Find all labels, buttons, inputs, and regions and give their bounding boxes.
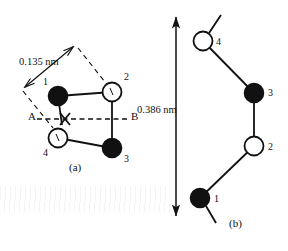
atom-label-b-3: 3 bbox=[268, 88, 273, 98]
bonds-b bbox=[200, 41, 254, 198]
atom-label-a-3: 3 bbox=[124, 154, 129, 164]
atom-b-1-filled bbox=[191, 189, 210, 208]
atom-b-4-open bbox=[194, 32, 213, 51]
atom-b-3-filled bbox=[245, 84, 264, 103]
atom-a-1-filled bbox=[49, 87, 68, 106]
free-bond-top bbox=[209, 15, 221, 33]
axis-endpoint-label-a: A bbox=[28, 111, 36, 122]
bond-4-3 bbox=[203, 41, 254, 93]
panel-caption-b: (b) bbox=[229, 218, 242, 229]
atom-label-b-2: 2 bbox=[268, 142, 273, 152]
extension-line-right bbox=[78, 48, 109, 87]
figure-root: 0.135 nm A B 1 2 3 4 (a) 0.386 nm 4 3 2 … bbox=[0, 0, 288, 251]
dimension-label-0135: 0.135 nm bbox=[19, 57, 59, 68]
atom-a-3-filled bbox=[103, 139, 122, 158]
atom-b-2-open bbox=[245, 137, 264, 156]
atom-label-a-4: 4 bbox=[43, 148, 48, 158]
bond-2-1 bbox=[200, 146, 254, 198]
dimension-label-0386: 0.386 nm bbox=[137, 105, 177, 116]
molecular-chain-diagram bbox=[0, 0, 288, 251]
atom-label-b-1: 1 bbox=[214, 194, 219, 204]
atom-label-a-1: 1 bbox=[43, 77, 48, 87]
free-bond-bottom bbox=[206, 206, 216, 223]
atom-label-b-4: 4 bbox=[216, 37, 221, 47]
atom-label-a-2: 2 bbox=[124, 72, 129, 82]
panel-caption-a: (a) bbox=[69, 162, 81, 173]
